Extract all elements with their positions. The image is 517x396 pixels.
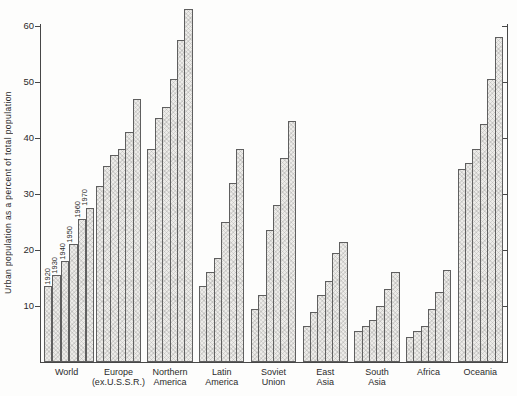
bar	[443, 270, 451, 362]
y-tick-mark	[35, 26, 40, 27]
bar-group-northern-america	[147, 9, 192, 362]
bar	[52, 275, 60, 362]
bar-group-east-asia	[303, 242, 348, 362]
year-label: 1950	[66, 226, 74, 243]
bar-group-africa	[406, 270, 451, 362]
bar-group-world: 192019301940195019601970	[44, 208, 94, 362]
x-axis-label-line: Asia	[339, 377, 415, 387]
bar-group-oceania	[458, 37, 503, 362]
y-tick-mark	[35, 306, 40, 307]
bar	[184, 9, 192, 362]
bar-group-europe-exussr	[96, 99, 141, 362]
bar	[339, 242, 347, 362]
bar	[61, 261, 69, 362]
bar-group-latin-america	[199, 149, 244, 362]
bar-group-soviet-union	[251, 121, 296, 362]
y-tick-mark	[35, 82, 40, 83]
y-tick-mark	[35, 250, 40, 251]
y-axis-right	[507, 24, 508, 363]
bar-group-south-asia	[354, 272, 399, 362]
bar	[86, 208, 94, 362]
x-axis-label: Oceania	[442, 367, 517, 377]
year-label: 1970	[81, 189, 89, 206]
bar	[44, 286, 52, 362]
y-tick-mark	[502, 26, 507, 27]
bar	[495, 37, 503, 362]
y-tick-label: 30	[14, 188, 34, 199]
urban-population-bar-chart: Urban population as a percent of total p…	[0, 0, 517, 396]
y-tick-mark	[35, 138, 40, 139]
y-tick-label: 10	[14, 300, 34, 311]
bar	[78, 219, 86, 362]
y-tick-label: 40	[14, 132, 34, 143]
y-tick-mark	[35, 194, 40, 195]
y-tick-label: 50	[14, 76, 34, 87]
bar	[236, 149, 244, 362]
bar	[288, 121, 296, 362]
bar	[391, 272, 399, 362]
bar	[69, 244, 77, 362]
x-axis-label-line: Oceania	[442, 367, 517, 377]
bar	[133, 99, 141, 362]
x-axis-baseline	[40, 362, 508, 363]
y-tick-label: 60	[14, 20, 34, 31]
year-label: 1940	[59, 243, 67, 260]
y-axis-left	[40, 24, 41, 363]
y-tick-label: 20	[14, 244, 34, 255]
